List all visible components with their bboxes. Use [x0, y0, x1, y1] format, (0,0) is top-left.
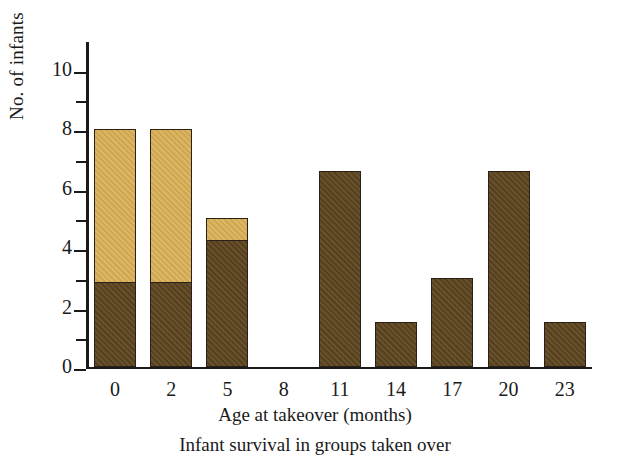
- bar[interactable]: [150, 129, 192, 367]
- y-tick-mark: [74, 310, 86, 312]
- y-axis-title: No. of infants: [6, 0, 28, 120]
- bar[interactable]: [319, 171, 361, 367]
- bar-segment-light: [151, 130, 191, 282]
- y-tick-label: 8: [42, 118, 72, 138]
- bar-slot: [257, 42, 313, 367]
- bar-segment-light: [95, 130, 135, 282]
- plot-area: 0246810: [86, 42, 592, 369]
- bar-segment-dark: [489, 172, 529, 366]
- bar-segment-dark: [545, 323, 585, 366]
- x-axis-tick-labels: 02581114172023: [88, 371, 594, 401]
- chart-figure: No. of infants 0246810 02581114172023 Ag…: [0, 0, 630, 476]
- y-tick-label: 6: [42, 178, 72, 198]
- x-tick-label: 8: [257, 379, 311, 399]
- y-tick-mark: [76, 161, 86, 163]
- x-tick-label: 0: [88, 379, 142, 399]
- bar-slot: [200, 42, 256, 367]
- y-tick-mark: [74, 131, 86, 133]
- x-tick-label: 17: [425, 379, 479, 399]
- bar-segment-dark: [320, 172, 360, 366]
- y-tick-label: 2: [42, 297, 72, 317]
- y-tick-mark: [74, 72, 86, 74]
- y-tick-mark: [76, 220, 86, 222]
- y-tick-mark: [76, 101, 86, 103]
- bar-segment-light: [207, 219, 247, 240]
- y-tick-mark: [74, 191, 86, 193]
- x-tick-label: 11: [313, 379, 367, 399]
- bar[interactable]: [544, 322, 586, 367]
- bar-slot: [369, 42, 425, 367]
- bar-slot: [538, 42, 594, 367]
- x-axis-title: Age at takeover (months): [0, 404, 630, 426]
- bar[interactable]: [375, 322, 417, 367]
- x-tick-label: 23: [538, 379, 592, 399]
- bar[interactable]: [94, 129, 136, 367]
- bar-segment-dark: [151, 282, 191, 366]
- x-tick-label: 14: [369, 379, 423, 399]
- y-tick-label: 10: [42, 59, 72, 79]
- bar-slot: [425, 42, 481, 367]
- y-tick-mark: [76, 280, 86, 282]
- bar-segment-dark: [432, 279, 472, 366]
- bar-slot: [88, 42, 144, 367]
- y-tick-label: 0: [42, 356, 72, 376]
- y-tick-mark: [76, 339, 86, 341]
- bar-slot: [313, 42, 369, 367]
- x-tick-label: 20: [482, 379, 536, 399]
- y-tick-label: 4: [42, 237, 72, 257]
- bar-series-group: [88, 42, 592, 367]
- bar-slot: [144, 42, 200, 367]
- y-tick-mark: [74, 369, 86, 371]
- x-tick-label: 2: [144, 379, 198, 399]
- bar[interactable]: [488, 171, 530, 367]
- x-tick-label: 5: [200, 379, 254, 399]
- bar-segment-dark: [376, 323, 416, 366]
- bar[interactable]: [206, 218, 248, 367]
- bar-segment-dark: [95, 282, 135, 366]
- figure-caption: Infant survival in groups taken over: [0, 434, 630, 456]
- bar-segment-dark: [207, 240, 247, 366]
- bar[interactable]: [431, 278, 473, 367]
- y-tick-mark: [74, 250, 86, 252]
- bar-slot: [482, 42, 538, 367]
